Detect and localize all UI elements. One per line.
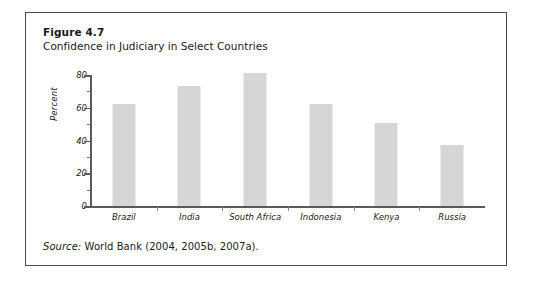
bar bbox=[244, 73, 267, 206]
bar bbox=[375, 123, 398, 207]
source-note: Source: World Bank (2004, 2005b, 2007a). bbox=[43, 241, 259, 252]
bar-group: Russia bbox=[419, 75, 485, 206]
x-tick-label: India bbox=[179, 212, 200, 222]
y-axis-title: Percent bbox=[49, 87, 59, 121]
y-tick-minor bbox=[87, 91, 91, 92]
y-tick-major bbox=[84, 141, 90, 143]
figure-caption: Confidence in Judiciary in Select Countr… bbox=[43, 39, 473, 54]
bar-group: South Africa bbox=[222, 75, 288, 206]
x-tick bbox=[419, 207, 420, 211]
x-tick bbox=[288, 207, 289, 211]
bar bbox=[112, 104, 135, 206]
x-tick bbox=[157, 207, 158, 211]
bar bbox=[309, 104, 332, 206]
bar bbox=[178, 86, 201, 206]
y-tick-major bbox=[84, 75, 90, 77]
bar-group: Brazil bbox=[91, 75, 157, 206]
bar-chart: Percent 020406080 BrazilIndiaSouth Afric… bbox=[43, 75, 491, 235]
y-tick-minor bbox=[87, 124, 91, 125]
x-tick bbox=[222, 207, 223, 211]
figure-number: Figure 4.7 bbox=[43, 25, 473, 39]
x-tick-label: Russia bbox=[438, 212, 466, 222]
y-tick-minor bbox=[87, 190, 91, 191]
y-tick-minor bbox=[87, 157, 91, 158]
bar-group: India bbox=[157, 75, 223, 206]
bar-group: Indonesia bbox=[288, 75, 354, 206]
x-tick-label: Indonesia bbox=[300, 212, 341, 222]
x-tick-label: Kenya bbox=[373, 212, 399, 222]
y-tick-major bbox=[84, 108, 90, 110]
bar bbox=[441, 145, 464, 206]
source-label: Source: bbox=[43, 241, 81, 252]
y-tick-major bbox=[84, 173, 90, 175]
bars-layer: BrazilIndiaSouth AfricaIndonesiaKenyaRus… bbox=[91, 75, 485, 206]
figure-header: Figure 4.7 Confidence in Judiciary in Se… bbox=[43, 25, 473, 54]
x-tick bbox=[354, 207, 355, 211]
bar-group: Kenya bbox=[354, 75, 420, 206]
source-text: World Bank (2004, 2005b, 2007a). bbox=[81, 241, 258, 252]
x-tick-label: South Africa bbox=[229, 212, 281, 222]
x-tick-label: Brazil bbox=[112, 212, 136, 222]
figure-box: Figure 4.7 Confidence in Judiciary in Se… bbox=[25, 12, 507, 266]
